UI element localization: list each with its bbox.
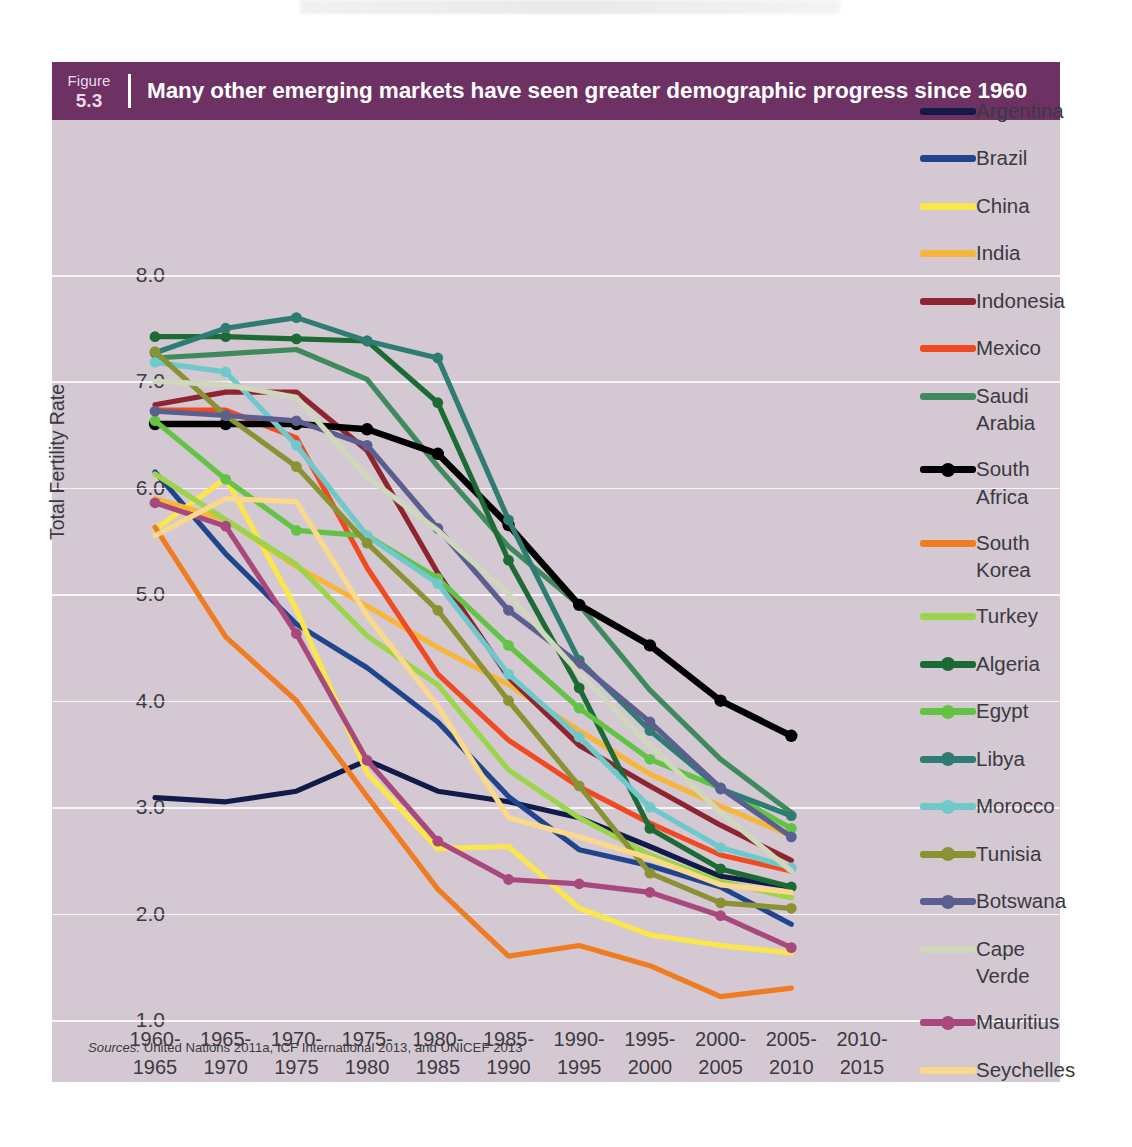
data-point: [574, 703, 585, 714]
legend-label: Cape: [976, 939, 1025, 960]
legend-swatch: [920, 108, 976, 115]
legend-swatch: [920, 203, 976, 210]
data-point: [150, 415, 161, 426]
x-axis-ticks: 1960-19651965-19701970-19751975-19801980…: [52, 1025, 890, 1105]
legend-item-mexico[interactable]: Mexico: [920, 340, 1041, 358]
legend-item-indonesia[interactable]: Indonesia: [920, 292, 1065, 310]
data-point: [362, 755, 373, 766]
legend-item-egypt[interactable]: Egypt: [920, 703, 1028, 721]
legend-label: South: [976, 533, 1030, 554]
x-tick-line2: 2015: [819, 1053, 905, 1081]
figure-title: Many other emerging markets have seen gr…: [147, 78, 1027, 104]
legend-item-india[interactable]: India: [920, 245, 1020, 263]
data-point: [150, 331, 161, 342]
legend-swatch: [920, 250, 976, 257]
legend-item-south-korea[interactable]: South: [920, 534, 1030, 552]
legend-swatch: [920, 345, 976, 352]
data-point: [291, 415, 302, 426]
legend-item-tunisia[interactable]: Tunisia: [920, 845, 1041, 863]
sources-text: United Nations 2011a, ICF International …: [140, 1040, 522, 1055]
legend-label: Egypt: [976, 701, 1028, 722]
data-point: [432, 578, 443, 589]
data-point: [150, 497, 161, 508]
legend-label: Libya: [976, 749, 1025, 770]
legend-label: Algeria: [976, 654, 1040, 675]
data-point: [291, 461, 302, 472]
data-point: [786, 903, 797, 914]
data-point: [220, 367, 231, 378]
data-point: [573, 599, 585, 611]
legend-item-saudi-arabia[interactable]: Saudi: [920, 387, 1028, 405]
data-point: [220, 323, 231, 334]
data-point: [644, 639, 656, 651]
data-point: [645, 868, 656, 879]
legend-item-turkey[interactable]: Turkey: [920, 608, 1038, 626]
chart-legend: ArgentinaBrazilChinaIndiaIndonesiaMexico…: [920, 80, 1120, 1030]
data-point: [715, 783, 726, 794]
data-point: [786, 832, 797, 843]
legend-item-south-africa[interactable]: South: [920, 461, 1030, 479]
legend-swatch: [920, 613, 976, 620]
legend-item-botswana[interactable]: Botswana: [920, 893, 1066, 911]
page-top-text-fragment: [300, 0, 840, 14]
sources-prefix: Sources:: [88, 1040, 140, 1055]
figure-number-block: Figure 5.3: [52, 73, 126, 110]
legend-item-mauritius[interactable]: Mauritius: [920, 1014, 1059, 1032]
sources-note: Sources: United Nations 2011a, ICF Inter…: [88, 1040, 522, 1055]
data-point: [432, 836, 443, 847]
legend-label: South: [976, 459, 1030, 480]
series-south-africa: [149, 418, 798, 742]
data-point: [503, 669, 514, 680]
data-point: [362, 336, 373, 347]
figure-card: Figure 5.3 Many other emerging markets h…: [52, 62, 1060, 1082]
legend-label: China: [976, 196, 1030, 217]
legend-swatch: [920, 803, 976, 810]
legend-label: India: [976, 243, 1020, 264]
data-point: [291, 312, 302, 323]
figure-word: Figure: [52, 73, 126, 88]
legend-label: Indonesia: [976, 291, 1065, 312]
legend-label: Mauritius: [976, 1012, 1059, 1033]
legend-item-libya[interactable]: Libya: [920, 750, 1025, 768]
figure-page: Figure 5.3 Many other emerging markets h…: [0, 0, 1132, 1147]
legend-item-cape-verde[interactable]: Cape: [920, 940, 1025, 958]
legend-item-algeria[interactable]: Algeria: [920, 655, 1040, 673]
legend-item-seychelles[interactable]: Seychelles: [920, 1061, 1075, 1079]
legend-swatch: [920, 1067, 976, 1074]
data-point: [786, 810, 797, 821]
data-point: [220, 410, 231, 421]
legend-swatch: [920, 466, 976, 473]
legend-label: Turkey: [976, 606, 1038, 627]
data-point: [150, 406, 161, 417]
data-point: [645, 754, 656, 765]
data-point: [645, 823, 656, 834]
data-point: [291, 628, 302, 639]
data-point: [715, 842, 726, 853]
data-point: [785, 730, 797, 742]
legend-label: Saudi: [976, 386, 1028, 407]
legend-swatch: [920, 946, 976, 953]
data-point: [361, 423, 373, 435]
legend-item-morocco[interactable]: Morocco: [920, 798, 1055, 816]
legend-label-continuation: Verde: [976, 964, 1030, 988]
data-point: [432, 448, 444, 460]
data-point: [220, 521, 231, 532]
data-point: [503, 640, 514, 651]
data-point: [432, 605, 443, 616]
legend-swatch: [920, 155, 976, 162]
data-point: [574, 781, 585, 792]
data-point: [645, 802, 656, 813]
figure-header: Figure 5.3 Many other emerging markets h…: [52, 62, 1060, 120]
data-point: [362, 538, 373, 549]
legend-swatch: [920, 298, 976, 305]
data-point: [786, 942, 797, 953]
legend-item-brazil[interactable]: Brazil: [920, 150, 1027, 168]
legend-label-continuation: Korea: [976, 558, 1031, 582]
legend-item-argentina[interactable]: Argentina: [920, 102, 1064, 120]
data-point: [715, 910, 726, 921]
data-point: [291, 334, 302, 345]
legend-swatch: [920, 898, 976, 905]
data-point: [503, 695, 514, 706]
x-tick-line1: 2010-: [819, 1025, 905, 1053]
legend-item-china[interactable]: China: [920, 197, 1030, 215]
